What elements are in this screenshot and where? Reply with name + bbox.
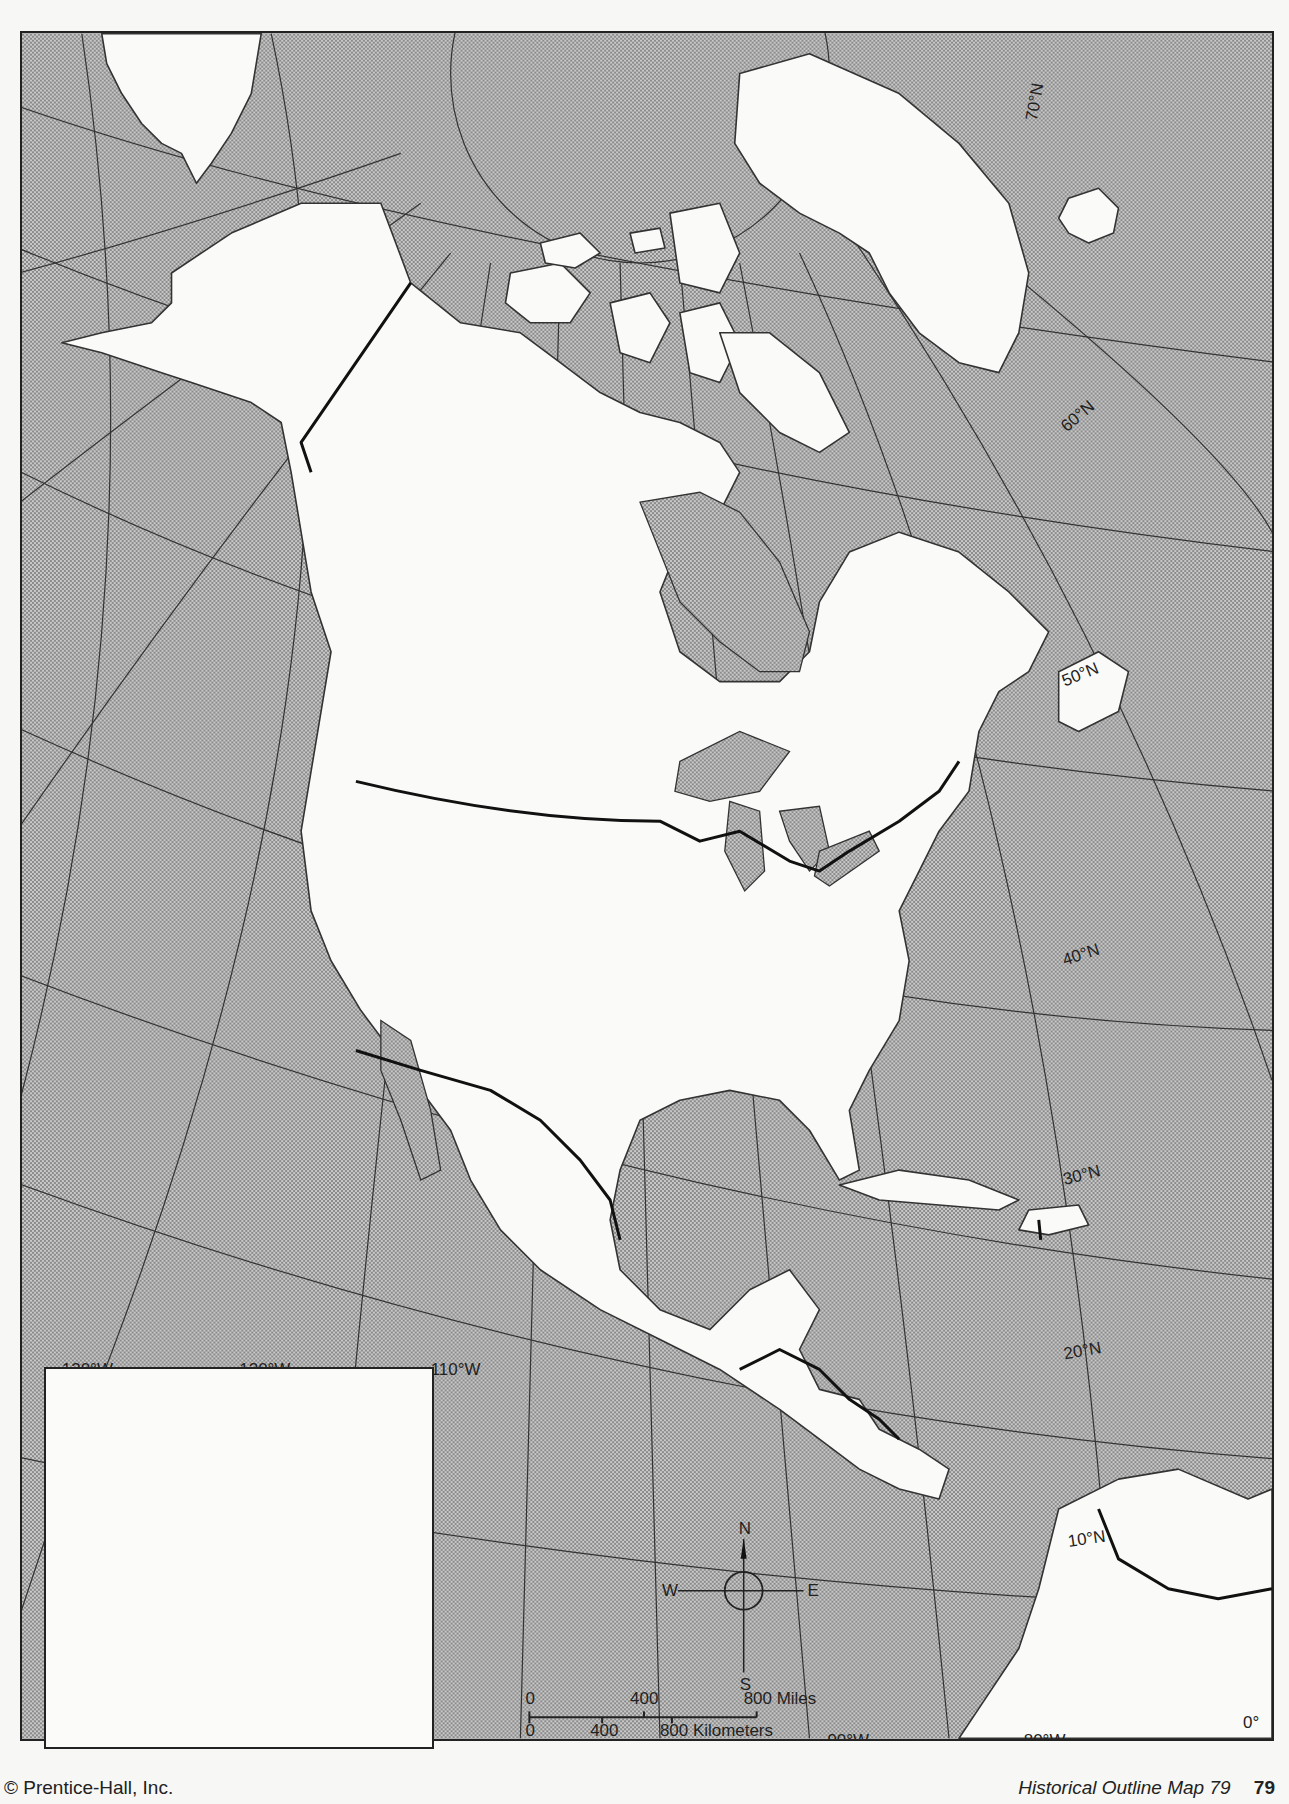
scale-km-400: 400 [590, 1721, 618, 1739]
scale-km-0: 0 [525, 1721, 534, 1739]
footer-title-block: Historical Outline Map 79 79 [1018, 1777, 1275, 1799]
copyright-notice: © Prentice-Hall, Inc. [4, 1777, 173, 1799]
page-number: 79 [1254, 1777, 1275, 1798]
blank-legend-box[interactable] [44, 1367, 434, 1749]
compass-w: W [662, 1581, 678, 1600]
scale-km-800: 800 Kilometers [660, 1721, 773, 1739]
lon-label-110w: 110°W [431, 1360, 481, 1379]
scale-miles-800: 800 Miles [744, 1689, 817, 1708]
lon-label-80w: 80°W [1024, 1731, 1066, 1739]
scale-miles-0: 0 [525, 1689, 534, 1708]
lon-label-90w: 90°W [827, 1731, 869, 1739]
compass-n: N [739, 1519, 751, 1538]
map-title: Historical Outline Map 79 [1018, 1777, 1230, 1798]
compass-e: E [807, 1581, 818, 1600]
scale-miles-400: 400 [630, 1689, 658, 1708]
lat-label-0: 0° [1243, 1713, 1259, 1732]
